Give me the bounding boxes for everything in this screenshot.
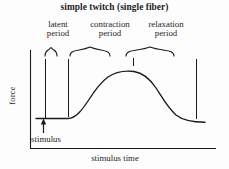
brace-relaxation-period [126, 47, 174, 56]
force-curve [36, 71, 205, 122]
x-axis-label: stimulus time [45, 154, 185, 163]
brace-latent-period [45, 48, 57, 57]
y-axis-label: force [8, 74, 17, 118]
twitch-diagram-figure: simple twitch (single fiber) latent peri… [0, 0, 229, 169]
chart-title: simple twitch (single fiber) [0, 3, 229, 13]
stimulus-arrow-icon [41, 119, 46, 134]
period-label-latent: latent period [34, 20, 82, 38]
period-label-relaxation: relaxation period [133, 20, 199, 38]
brace-contraction-period [70, 47, 110, 56]
stimulus-label: stimulus [22, 135, 70, 144]
